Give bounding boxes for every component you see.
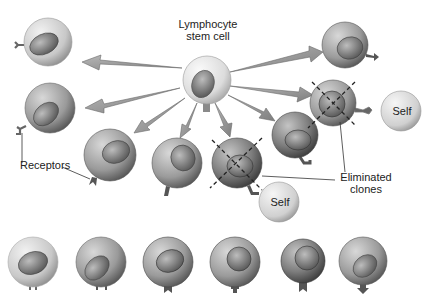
- label-self-right: Self: [387, 105, 417, 117]
- receptor: [247, 185, 259, 195]
- bottom-row-clones: [8, 237, 387, 294]
- clone-top-right: [322, 22, 379, 68]
- arrow-to-mid-right: [230, 86, 313, 102]
- receptor: [89, 177, 97, 186]
- arrow-to-row2-4: [228, 95, 275, 121]
- arrow-to-top-right: [230, 46, 323, 72]
- receptor: [355, 107, 372, 114]
- label-stem-cell-line2: stem cell: [170, 30, 246, 42]
- diagram-canvas: [0, 0, 422, 303]
- bottom-clone-4: [210, 237, 260, 293]
- label-eliminated-line1: Eliminated: [334, 171, 398, 183]
- clone-row2-3-eliminated: [210, 138, 262, 195]
- arrow-to-row2-3: [215, 103, 232, 137]
- arrow-to-mid-left: [85, 88, 180, 113]
- label-eliminated-clones: Eliminated clones: [334, 171, 398, 195]
- arrow-to-row2-2: [180, 103, 197, 138]
- clone-mid-right-eliminated: [308, 80, 372, 128]
- clone-top-left: [15, 18, 72, 66]
- clonal-selection-diagram: Lymphocyte stem cell Receptors Eliminate…: [0, 0, 422, 303]
- arrow-to-top-left: [82, 55, 182, 70]
- label-eliminated-line2: clones: [334, 183, 398, 195]
- receptor: [15, 42, 24, 48]
- clone-row2-4: [272, 112, 318, 163]
- label-receptors: Receptors: [20, 159, 70, 171]
- bottom-clone-5: [281, 239, 325, 292]
- clone-row2-1: [84, 129, 136, 186]
- clone-row2-2: [152, 138, 202, 196]
- receptor: [16, 126, 26, 134]
- receptor: [164, 186, 170, 196]
- bottom-clone-3: [143, 237, 193, 293]
- receptor: [366, 53, 379, 61]
- label-self-bottom: Self: [265, 196, 295, 208]
- bottom-clone-2: [76, 237, 126, 290]
- bottom-clone-6: [339, 237, 387, 294]
- receptor: [300, 157, 310, 163]
- bottom-clone-1: [8, 237, 58, 290]
- label-stem-cell-line1: Lymphocyte: [170, 18, 246, 30]
- label-stem-cell: Lymphocyte stem cell: [170, 18, 246, 42]
- clone-mid-left: [16, 83, 75, 134]
- arrow-to-row2-1: [134, 98, 185, 133]
- eliminated-leader-2: [340, 122, 345, 172]
- lymphocyte-stem-cell: [183, 56, 231, 112]
- eliminated-leader-1: [262, 176, 335, 180]
